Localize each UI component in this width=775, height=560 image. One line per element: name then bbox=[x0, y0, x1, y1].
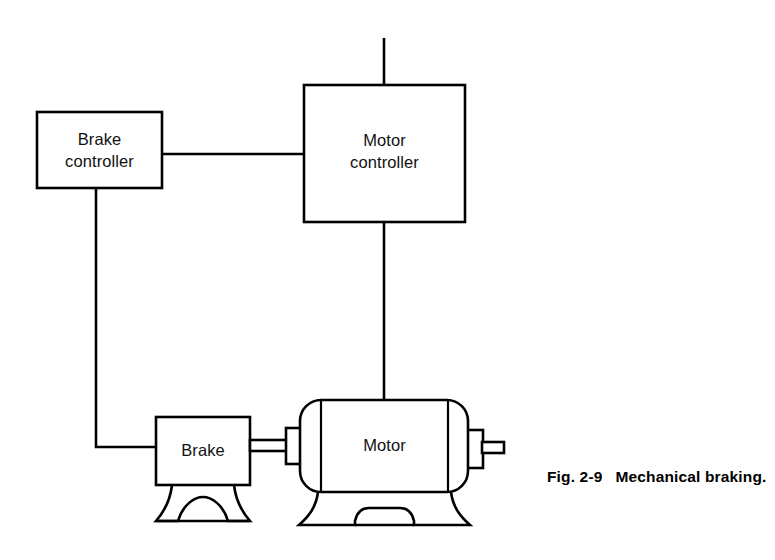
brake-controller-to-brake-line bbox=[96, 188, 157, 447]
motor-label: Motor bbox=[363, 436, 406, 454]
motor-pedestal-outline bbox=[299, 492, 470, 525]
figure-caption: Fig. 2-9Mechanical braking. bbox=[547, 466, 769, 487]
brake-pedestal bbox=[156, 485, 250, 521]
brake-controller-box bbox=[37, 112, 162, 188]
motor-controller-label-line1: Motor bbox=[363, 131, 406, 149]
brake-motor-shaft bbox=[250, 428, 302, 464]
figure-root: Brake controller Motor controller Brake bbox=[0, 0, 775, 560]
motor-pedestal bbox=[299, 492, 470, 525]
figure-caption-text: Mechanical braking. bbox=[615, 468, 766, 485]
brake-controller-label-line2: controller bbox=[65, 152, 134, 170]
figure-caption-id: Fig. 2-9 bbox=[547, 468, 602, 485]
brake-label: Brake bbox=[181, 441, 225, 459]
output-shaft-bar bbox=[482, 442, 504, 453]
motor-output-shaft bbox=[466, 430, 504, 468]
motor-controller-label-line2: controller bbox=[350, 153, 419, 171]
brake-pedestal-outline bbox=[156, 485, 250, 521]
brake-controller-label-line1: Brake bbox=[78, 130, 122, 148]
brake-pedestal-arch bbox=[156, 497, 250, 521]
shaft-bar bbox=[250, 440, 289, 451]
